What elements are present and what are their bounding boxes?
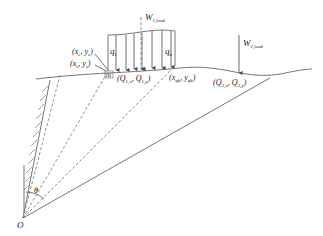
point-xs-ys-label: (xs, ys)	[70, 59, 91, 69]
retaining-wall	[23, 80, 50, 218]
q2-point-label: (Q2,x, Q2,y)	[213, 78, 247, 89]
origin-label: O	[17, 220, 24, 230]
q1-point-label: (Q1,x, Q1,y)	[117, 74, 151, 85]
theta-label: θ	[34, 186, 38, 195]
point-xe-ye-label: (xe, ye)	[72, 47, 93, 57]
w2-label: W2,load	[243, 38, 263, 50]
slip-surface	[23, 78, 270, 218]
point-xqk-yqk-label: (xqk, yqk)	[169, 73, 196, 83]
radial-line-1	[23, 73, 107, 218]
w1-label: W1,load	[145, 12, 165, 24]
delta-l-label: Δl	[105, 72, 112, 78]
load-arrows	[116, 30, 171, 70]
radial-line-2	[23, 69, 172, 218]
slope-stability-diagram: W1,load W2,load q1 qk (xe, ye) (xs, ys) …	[0, 0, 323, 236]
